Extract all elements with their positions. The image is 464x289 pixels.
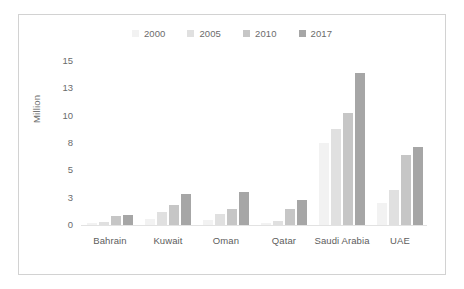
y-tick-label: 0 [47, 220, 73, 230]
bar-qatar-2017[interactable] [297, 200, 307, 225]
bars-area [81, 61, 427, 225]
bar-saudi-arabia-2017[interactable] [355, 73, 365, 225]
bar-oman-2000[interactable] [203, 220, 213, 225]
x-tick-label: Kuwait [139, 236, 197, 246]
bar-kuwait-2000[interactable] [145, 219, 155, 225]
y-tick-label: 8 [47, 138, 73, 148]
x-tick-label: Qatar [255, 236, 313, 246]
bar-qatar-2000[interactable] [261, 223, 271, 226]
bar-kuwait-2005[interactable] [157, 212, 167, 225]
x-tick-label: UAE [371, 236, 429, 246]
x-axis-line [81, 225, 427, 226]
x-tick-label: Oman [197, 236, 255, 246]
y-tick-label: 13 [47, 83, 73, 93]
y-tick-label: 15 [47, 56, 73, 66]
bar-kuwait-2010[interactable] [169, 205, 179, 225]
bar-saudi-arabia-2000[interactable] [319, 143, 329, 225]
bar-bahrain-2010[interactable] [111, 216, 121, 225]
plot-container: Million 1513108530 BahrainKuwaitOmanQata… [19, 15, 445, 274]
bar-group [313, 61, 371, 225]
bar-uae-2017[interactable] [413, 147, 423, 225]
bar-qatar-2005[interactable] [273, 221, 283, 225]
bar-bahrain-2000[interactable] [87, 223, 97, 225]
bar-bahrain-2005[interactable] [99, 222, 109, 225]
bar-qatar-2010[interactable] [285, 209, 295, 225]
bar-group [371, 61, 429, 225]
y-axis-title: Million [31, 95, 42, 123]
bar-oman-2005[interactable] [215, 214, 225, 225]
bar-group [197, 61, 255, 225]
bar-saudi-arabia-2005[interactable] [331, 129, 341, 225]
y-tick-label: 10 [47, 111, 73, 121]
y-tick-label: 5 [47, 165, 73, 175]
bar-oman-2010[interactable] [227, 209, 237, 225]
bar-bahrain-2017[interactable] [123, 215, 133, 225]
x-tick-label: Bahrain [81, 236, 139, 246]
bar-oman-2017[interactable] [239, 192, 249, 225]
bar-uae-2005[interactable] [389, 190, 399, 225]
bar-uae-2000[interactable] [377, 203, 387, 225]
bar-group [81, 61, 139, 225]
bar-kuwait-2017[interactable] [181, 194, 191, 225]
bar-saudi-arabia-2010[interactable] [343, 113, 353, 225]
bar-uae-2010[interactable] [401, 155, 411, 225]
bar-group [139, 61, 197, 225]
bar-group [255, 61, 313, 225]
x-tick-label: Saudi Arabia [313, 236, 371, 246]
chart-figure: 2000 2005 2010 2017 Million 1513108530 B… [18, 14, 446, 275]
y-tick-label: 3 [47, 193, 73, 203]
